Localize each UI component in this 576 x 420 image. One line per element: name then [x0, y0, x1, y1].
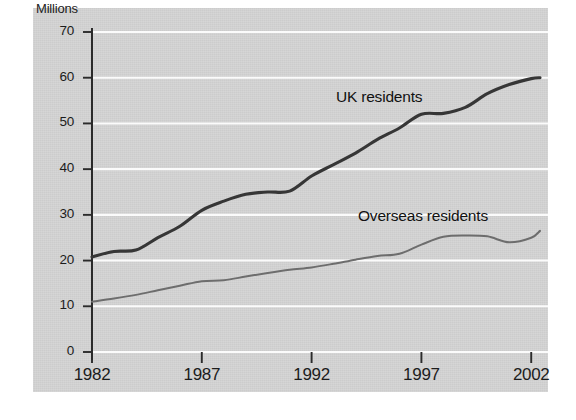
series-line-uk-residents — [92, 78, 540, 257]
axis-ticks-group — [83, 32, 531, 363]
y-tick-label-40: 40 — [28, 160, 74, 175]
x-tick-label-1992: 1992 — [267, 365, 357, 385]
data-series-group — [92, 78, 540, 302]
series-label-uk-residents: UK residents — [336, 88, 422, 106]
x-tick-label-2002: 2002 — [486, 365, 576, 385]
y-tick-label-10: 10 — [28, 297, 74, 312]
y-tick-label-20: 20 — [28, 252, 74, 267]
y-tick-label-0: 0 — [28, 343, 74, 358]
x-tick-label-1982: 1982 — [47, 365, 137, 385]
series-label-overseas-residents: Overseas residents — [358, 207, 488, 225]
y-tick-label-50: 50 — [28, 114, 74, 129]
y-tick-label-70: 70 — [28, 23, 74, 38]
y-tick-label-30: 30 — [28, 206, 74, 221]
chart-container: Millions 010203040506070 198219871992199… — [0, 0, 576, 420]
x-tick-label-1997: 1997 — [376, 365, 466, 385]
gridlines-group — [92, 32, 548, 352]
plot-svg — [0, 0, 576, 420]
x-tick-label-1987: 1987 — [157, 365, 247, 385]
y-tick-label-60: 60 — [28, 69, 74, 84]
series-line-overseas-residents — [92, 231, 540, 302]
